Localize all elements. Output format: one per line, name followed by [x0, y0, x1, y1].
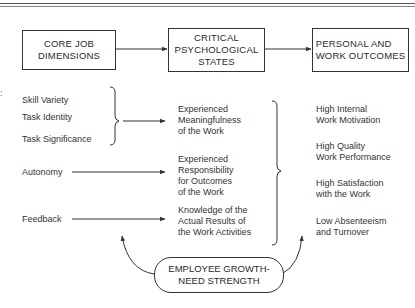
outcome-quality-performance: High Quality Work Performance — [316, 141, 391, 163]
state-meaningfulness: Experienced Meaningfulness of the Work — [178, 104, 241, 137]
brace-left — [110, 87, 119, 145]
state-knowledge-of-results: Knowledge of the Actual Results of the W… — [178, 205, 251, 238]
header-label: CORE JOB DIMENSIONS — [38, 38, 100, 62]
state-responsibility: Experienced Responsibility for Outcomes … — [178, 154, 234, 198]
outcome-internal-motivation: High Internal Work Motivation — [316, 104, 380, 126]
moderator-growth-need-strength: EMPLOYEE GROWTH- NEED STRENGTH — [154, 257, 284, 293]
header-critical-psychological-states: CRITICAL PSYCHOLOGICAL STATES — [168, 28, 265, 72]
outcome-low-absenteeism: Low Absenteeism and Turnover — [316, 216, 387, 238]
dimension-task-identity: Task Identity — [22, 112, 72, 123]
dimension-skill-variety: Skill Variety — [22, 95, 68, 106]
header-label: PERSONAL AND WORK OUTCOMES — [316, 38, 406, 62]
header-label: CRITICAL PSYCHOLOGICAL STATES — [175, 32, 259, 68]
header-core-job-dimensions: CORE JOB DIMENSIONS — [22, 30, 116, 70]
arrow-moderator-right — [282, 236, 302, 274]
dimension-feedback: Feedback — [22, 214, 62, 225]
arrow-moderator-left — [122, 236, 154, 274]
header-personal-work-outcomes: PERSONAL AND WORK OUTCOMES — [312, 28, 409, 72]
dimension-task-significance: Task Significance — [22, 134, 92, 145]
dimension-autonomy: Autonomy — [22, 167, 63, 178]
brace-right — [272, 101, 281, 245]
outcome-satisfaction: High Satisfaction with the Work — [316, 178, 384, 200]
